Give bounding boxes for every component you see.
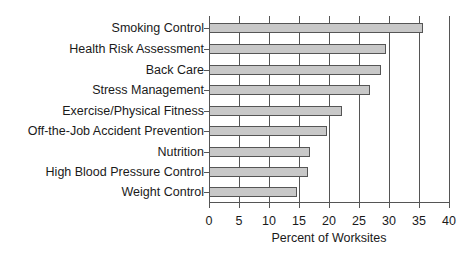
x-tick-label: 25 bbox=[349, 214, 369, 228]
y-tick bbox=[204, 70, 209, 71]
x-tick-label: 0 bbox=[199, 214, 219, 228]
y-tick bbox=[204, 152, 209, 153]
x-axis-title: Percent of Worksites bbox=[209, 231, 449, 245]
y-tick bbox=[204, 49, 209, 50]
bar bbox=[209, 106, 342, 116]
category-label: High Blood Pressure Control bbox=[46, 165, 204, 179]
bar bbox=[209, 167, 308, 177]
category-label: Stress Management bbox=[92, 83, 204, 97]
category-label: Back Care bbox=[146, 63, 204, 77]
category-label: Nutrition bbox=[157, 145, 204, 159]
y-tick bbox=[204, 192, 209, 193]
x-tick-label: 5 bbox=[229, 214, 249, 228]
bar bbox=[209, 44, 386, 54]
x-tick-label: 10 bbox=[259, 214, 279, 228]
y-tick bbox=[204, 28, 209, 29]
y-tick bbox=[204, 111, 209, 112]
category-label: Exercise/Physical Fitness bbox=[62, 104, 204, 118]
x-tick-label: 40 bbox=[439, 214, 459, 228]
x-tick-label: 20 bbox=[319, 214, 339, 228]
bar-chart: Smoking ControlHealth Risk AssessmentBac… bbox=[0, 0, 468, 253]
category-label: Smoking Control bbox=[112, 21, 204, 35]
y-tick bbox=[204, 90, 209, 91]
y-tick bbox=[204, 172, 209, 173]
gridline bbox=[419, 16, 420, 208]
category-label: Health Risk Assessment bbox=[69, 42, 204, 56]
x-tick-label: 35 bbox=[409, 214, 429, 228]
bar bbox=[209, 187, 297, 197]
y-tick bbox=[204, 131, 209, 132]
bar bbox=[209, 23, 423, 33]
bar bbox=[209, 147, 310, 157]
category-label: Weight Control bbox=[122, 185, 204, 199]
bar bbox=[209, 65, 381, 75]
gridline bbox=[449, 16, 450, 208]
bar bbox=[209, 126, 327, 136]
x-tick-label: 30 bbox=[379, 214, 399, 228]
x-tick-label: 15 bbox=[289, 214, 309, 228]
gridline bbox=[389, 16, 390, 208]
bar bbox=[209, 85, 370, 95]
category-label: Off-the-Job Accident Prevention bbox=[28, 124, 204, 138]
